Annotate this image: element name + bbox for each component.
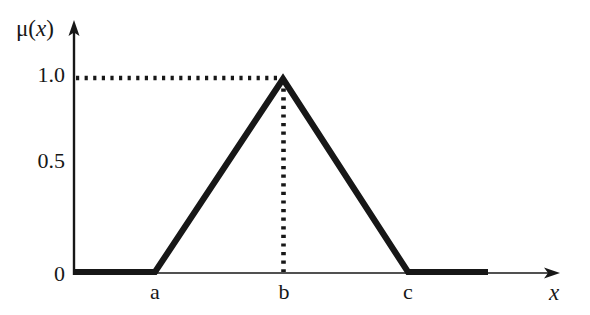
y-axis-title-mu: μ( — [16, 16, 36, 41]
x-tick-label-b: b — [264, 281, 304, 303]
x-axis-title: x — [549, 281, 559, 304]
y-axis-title: μ(x) — [16, 17, 54, 40]
x-tick-label-c: c — [388, 281, 428, 303]
y-tick-label-0-5: 0.5 — [5, 150, 65, 172]
y-tick-label-1: 1.0 — [5, 64, 65, 86]
y-axis-title-variable: x — [36, 16, 46, 41]
x-tick-label-a: a — [135, 281, 175, 303]
membership-function-figure: μ(x) x 1.0 0.5 0 a b c — [0, 0, 590, 315]
membership-curve — [74, 79, 488, 272]
y-axis-title-paren: ) — [46, 16, 54, 41]
y-tick-label-0: 0 — [5, 263, 65, 285]
plot-canvas — [0, 0, 590, 315]
